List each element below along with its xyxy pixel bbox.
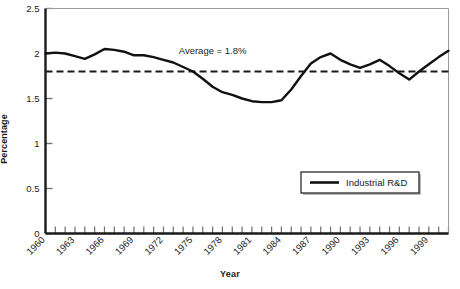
x-tick-label: 1963 — [54, 234, 77, 257]
x-tick-label: 1966 — [83, 234, 106, 257]
y-axis-title-text: Percentage — [0, 84, 9, 194]
x-tick-label: 1960 — [24, 234, 47, 257]
y-tick-label: 2 — [34, 48, 39, 59]
chart-annotations: Average = 1.8% — [179, 45, 247, 56]
x-tick-label: 1984 — [260, 234, 283, 257]
data-series-lines — [46, 49, 449, 102]
x-tick-label: 1981 — [231, 234, 254, 257]
x-tick-label: 1990 — [319, 234, 342, 257]
chart-container: Percentage 00.511.522.5 1960196319661969… — [0, 0, 460, 289]
x-tick-label: 1975 — [172, 234, 195, 257]
y-axis-title: Percentage — [0, 0, 9, 84]
y-tick-label: 2.5 — [26, 3, 39, 14]
x-tick-label: 1978 — [201, 234, 224, 257]
x-tick-label: 1996 — [378, 234, 401, 257]
x-tick-label: 1993 — [349, 234, 372, 257]
y-axis-ticks: 00.511.522.5 — [26, 3, 52, 239]
x-tick-label: 1999 — [408, 234, 431, 257]
x-axis-title: Year — [0, 269, 460, 279]
plot-frame — [46, 9, 449, 234]
chart-plot: 00.511.522.5 196019631966196919721975197… — [0, 0, 460, 289]
x-tick-label: 1969 — [113, 234, 136, 257]
x-axis-ticks: 1960196319661969197219751978198119841987… — [24, 227, 448, 257]
x-tick-label: 1972 — [142, 234, 165, 257]
x-tick-label: 1987 — [290, 234, 313, 257]
average-annotation: Average = 1.8% — [179, 45, 247, 56]
chart-legend[interactable]: Industrial R&D — [301, 172, 421, 195]
series-line — [46, 49, 449, 102]
y-tick-label: 1.5 — [26, 93, 39, 104]
legend-label: Industrial R&D — [346, 177, 407, 188]
y-tick-label: 1 — [34, 138, 39, 149]
y-tick-label: 0.5 — [26, 183, 39, 194]
